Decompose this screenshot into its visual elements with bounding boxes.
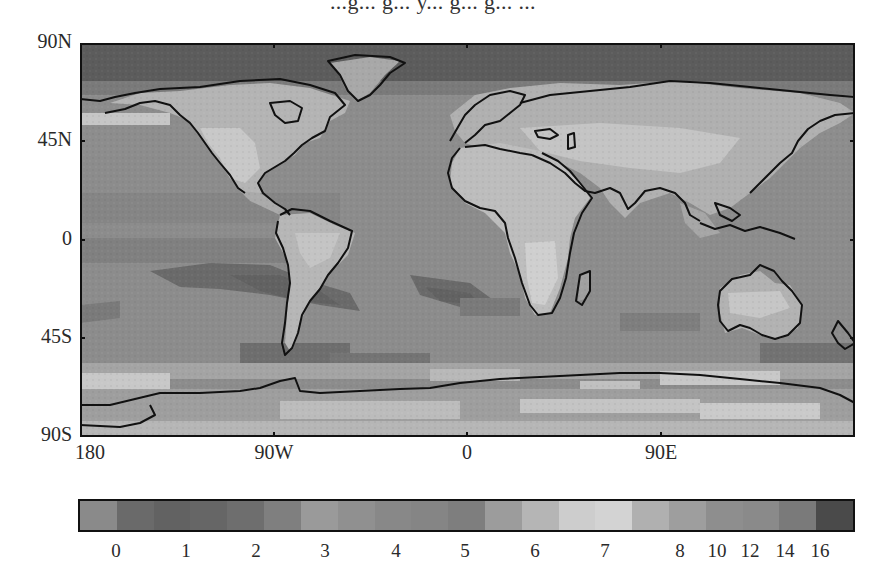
colorbar-segment: [779, 501, 816, 530]
colorbar-segment: [632, 501, 669, 530]
colorbar-segment: [117, 501, 154, 530]
colorbar-segment: [375, 501, 412, 530]
colorbar-tick: 1: [181, 540, 191, 562]
colorbar-segment: [706, 501, 743, 530]
x-tick-90w: 90W: [255, 441, 294, 464]
colorbar-segment: [743, 501, 780, 530]
colorbar-segment: [485, 501, 522, 530]
x-tick-180: 180: [75, 441, 105, 464]
y-tick-90s: 90S: [4, 423, 72, 446]
colorbar-tick: 16: [811, 540, 830, 562]
colorbar-tick: 12: [741, 540, 760, 562]
colorbar-segment: [448, 501, 485, 530]
colorbar-segment: [411, 501, 448, 530]
colorbar-segment: [227, 501, 264, 530]
colorbar-tick: 2: [251, 540, 261, 562]
colorbar-tick: 3: [320, 540, 330, 562]
colorbar-segment: [559, 501, 596, 530]
colorbar-tick: 4: [391, 540, 401, 562]
colorbar-segment: [154, 501, 191, 530]
colorbar-tick: 8: [675, 540, 685, 562]
y-tick-45n: 45N: [4, 128, 72, 151]
colorbar-tick: 5: [460, 540, 470, 562]
colorbar-tick: 10: [708, 540, 727, 562]
colorbar-tick: 6: [530, 540, 540, 562]
colorbar: [78, 499, 855, 532]
colorbar-tick: 0: [111, 540, 121, 562]
y-tick-0: 0: [4, 227, 72, 250]
x-tick-0: 0: [462, 441, 472, 464]
colorbar-tick: 7: [600, 540, 610, 562]
colorbar-segment: [264, 501, 301, 530]
y-tick-45s: 45S: [4, 325, 72, 348]
y-tick-90n: 90N: [4, 30, 72, 53]
colorbar-segment: [669, 501, 706, 530]
colorbar-segment: [301, 501, 338, 530]
figure-title-clipped: ...g... g... y... g... g... ...: [330, 0, 536, 15]
colorbar-segment: [522, 501, 559, 530]
colorbar-segment: [595, 501, 632, 530]
x-tick-90e: 90E: [645, 441, 677, 464]
colorbar-segment: [80, 501, 117, 530]
global-map-heatmap: [80, 43, 855, 437]
colorbar-tick: 14: [776, 540, 795, 562]
colorbar-segment: [190, 501, 227, 530]
colorbar-segment: [816, 501, 853, 530]
colorbar-segment: [338, 501, 375, 530]
